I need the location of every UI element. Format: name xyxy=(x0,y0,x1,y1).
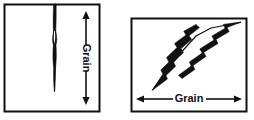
panel-split-across-grain: Grain xyxy=(132,19,247,112)
diagram-canvas: Grain Grain xyxy=(0,0,254,120)
figure-wood-grain-splits: Grain Grain xyxy=(0,0,254,120)
panel-split-parallel-to-grain: Grain xyxy=(5,4,100,112)
grain-label-right: Grain xyxy=(175,92,204,104)
grain-label-left: Grain xyxy=(81,44,93,73)
